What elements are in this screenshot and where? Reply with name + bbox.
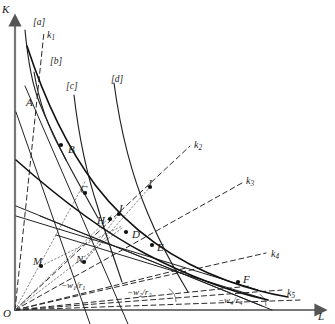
- point-C-label: C: [80, 184, 87, 195]
- point-H-marker: [108, 217, 112, 221]
- diagram-canvas: [0, 0, 335, 324]
- iso-label-a: [a]: [33, 18, 45, 28]
- slope-label-w2r2: −w2/r2: [127, 288, 152, 298]
- point-F-label: F: [243, 274, 250, 285]
- k-axis-label: K: [2, 4, 9, 15]
- l-axis-label: L: [318, 311, 324, 322]
- point-I-label: I: [119, 203, 123, 214]
- point-N-label: N: [76, 254, 83, 265]
- point-B-marker: [59, 143, 63, 147]
- point-D-label: D: [132, 229, 140, 240]
- angle-arc-w2r2: [169, 289, 176, 302]
- point-H-label: H: [97, 215, 105, 226]
- point-M-label: M: [33, 256, 42, 267]
- iso-label-b: [b]: [50, 57, 62, 67]
- ray-label-k5: k5: [287, 288, 295, 300]
- isoquant-b: [34, 72, 98, 218]
- origin-label: O: [3, 308, 11, 319]
- point-F-marker: [236, 280, 240, 284]
- ray-label-k1: k1: [47, 30, 55, 42]
- iso-label-c: [c]: [66, 82, 78, 92]
- tangent-line-1: [16, 112, 90, 324]
- ray-label-k2: k2: [194, 140, 202, 152]
- point-D-marker: [124, 230, 128, 234]
- point-B-label: B: [68, 144, 75, 155]
- budget-line-w4r4: [15, 300, 300, 310]
- point-A-label: A: [26, 97, 33, 108]
- point-E-label: E: [157, 242, 164, 253]
- isoquant-diagram: K L O [a][b][c][d] k1k2k3k4k5 −w1/r1−w2/…: [0, 0, 335, 324]
- ray-label-k3: k3: [246, 176, 254, 188]
- ray-label-k4: k4: [271, 249, 279, 261]
- iso-label-d: [d]: [111, 75, 123, 85]
- slope-label-w1r1: −w1/r1: [61, 281, 86, 291]
- construction-line-2: [15, 215, 112, 310]
- point-J-label: J: [147, 178, 152, 189]
- point-E-marker: [150, 243, 154, 247]
- expansion-rays-group: [15, 32, 282, 310]
- slope-label-w4r4: −w4/r4: [218, 296, 243, 306]
